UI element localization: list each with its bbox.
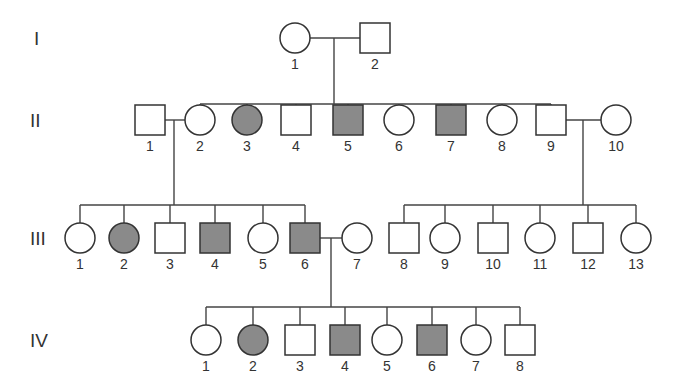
individual-number: 5 bbox=[344, 138, 352, 154]
individual-number: 3 bbox=[296, 358, 304, 374]
generation-label: II bbox=[30, 110, 41, 131]
individual-number: 13 bbox=[628, 256, 644, 272]
pedigree-symbols bbox=[65, 23, 651, 355]
individual-number: 6 bbox=[395, 138, 403, 154]
unaffected-female-symbol bbox=[487, 105, 517, 135]
individual-number: 2 bbox=[120, 256, 128, 272]
unaffected-male-symbol bbox=[155, 223, 185, 253]
unaffected-female-symbol bbox=[185, 105, 215, 135]
unaffected-female-symbol bbox=[525, 223, 555, 253]
individual-number: 11 bbox=[533, 256, 548, 272]
individual-number: 5 bbox=[259, 256, 267, 272]
unaffected-male-symbol bbox=[135, 105, 165, 135]
individual-number: 12 bbox=[580, 256, 596, 272]
individual-number: 8 bbox=[498, 138, 506, 154]
unaffected-male-symbol bbox=[360, 23, 390, 53]
individual-number: 2 bbox=[249, 358, 257, 374]
individual-number: 2 bbox=[371, 56, 379, 72]
affected-female-symbol bbox=[109, 223, 139, 253]
generation-label: I bbox=[34, 28, 39, 49]
individual-number: 7 bbox=[353, 256, 361, 272]
individual-number: 1 bbox=[146, 138, 154, 154]
individual-number: 8 bbox=[516, 358, 524, 374]
individual-number: 6 bbox=[301, 256, 309, 272]
individual-number: 3 bbox=[243, 138, 251, 154]
unaffected-female-symbol bbox=[372, 325, 402, 355]
unaffected-male-symbol bbox=[478, 223, 508, 253]
generation-label: IV bbox=[30, 330, 48, 351]
pedigree-labels: I12II12345678910III12345678910111213IV12… bbox=[30, 28, 644, 374]
unaffected-female-symbol bbox=[601, 105, 631, 135]
affected-male-symbol bbox=[333, 105, 363, 135]
unaffected-male-symbol bbox=[505, 325, 535, 355]
individual-number: 7 bbox=[447, 138, 455, 154]
unaffected-female-symbol bbox=[280, 23, 310, 53]
individual-number: 5 bbox=[383, 358, 391, 374]
individual-number: 9 bbox=[547, 138, 555, 154]
affected-male-symbol bbox=[200, 223, 230, 253]
unaffected-female-symbol bbox=[430, 223, 460, 253]
generation-label: III bbox=[30, 228, 46, 249]
unaffected-female-symbol bbox=[191, 325, 221, 355]
unaffected-male-symbol bbox=[285, 325, 315, 355]
unaffected-female-symbol bbox=[461, 325, 491, 355]
affected-male-symbol bbox=[330, 325, 360, 355]
individual-number: 7 bbox=[472, 358, 480, 374]
unaffected-male-symbol bbox=[573, 223, 603, 253]
individual-number: 4 bbox=[292, 138, 300, 154]
affected-female-symbol bbox=[238, 325, 268, 355]
affected-male-symbol bbox=[436, 105, 466, 135]
pedigree-chart: I12II12345678910III12345678910111213IV12… bbox=[0, 0, 687, 392]
unaffected-female-symbol bbox=[342, 223, 372, 253]
individual-number: 4 bbox=[341, 358, 349, 374]
unaffected-male-symbol bbox=[536, 105, 566, 135]
affected-male-symbol bbox=[290, 223, 320, 253]
individual-number: 9 bbox=[441, 256, 449, 272]
individual-number: 6 bbox=[428, 358, 436, 374]
unaffected-female-symbol bbox=[621, 223, 651, 253]
individual-number: 3 bbox=[166, 256, 174, 272]
individual-number: 10 bbox=[485, 256, 501, 272]
affected-female-symbol bbox=[232, 105, 262, 135]
unaffected-female-symbol bbox=[248, 223, 278, 253]
individual-number: 1 bbox=[202, 358, 210, 374]
individual-number: 4 bbox=[211, 256, 219, 272]
unaffected-male-symbol bbox=[389, 223, 419, 253]
pedigree-lines bbox=[80, 38, 636, 325]
individual-number: 1 bbox=[76, 256, 84, 272]
unaffected-female-symbol bbox=[65, 223, 95, 253]
affected-male-symbol bbox=[417, 325, 447, 355]
individual-number: 2 bbox=[196, 138, 204, 154]
unaffected-female-symbol bbox=[384, 105, 414, 135]
individual-number: 10 bbox=[608, 138, 624, 154]
individual-number: 1 bbox=[291, 56, 299, 72]
unaffected-male-symbol bbox=[281, 105, 311, 135]
individual-number: 8 bbox=[400, 256, 408, 272]
